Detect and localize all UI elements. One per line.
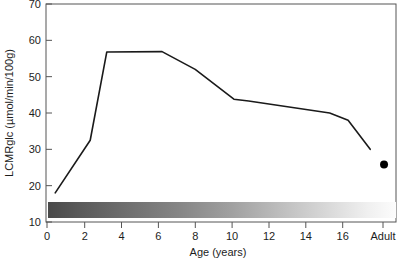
x-tick-label: 8 bbox=[192, 230, 198, 242]
x-axis-title: Age (years) bbox=[190, 246, 247, 258]
x-tick-label: 16 bbox=[337, 230, 349, 242]
y-tick-label: 70 bbox=[29, 0, 41, 10]
y-tick-label: 50 bbox=[29, 71, 41, 83]
line-chart: 70 60 50 40 30 20 10 LCMRglc (µmol/min/1… bbox=[0, 0, 413, 261]
chart-figure: 70 60 50 40 30 20 10 LCMRglc (µmol/min/1… bbox=[0, 0, 413, 261]
y-tick-label: 60 bbox=[29, 34, 41, 46]
y-tick-label: 10 bbox=[29, 216, 41, 228]
x-tick-label: 0 bbox=[44, 230, 50, 242]
x-axis-ticks bbox=[47, 222, 383, 228]
y-tick-label: 40 bbox=[29, 107, 41, 119]
x-tick-label: 2 bbox=[82, 230, 88, 242]
y-tick-label: 20 bbox=[29, 180, 41, 192]
y-axis-title: LCMRglc (µmol/min/100g) bbox=[3, 49, 15, 177]
myelination-gradient-bar bbox=[48, 202, 396, 218]
x-axis-tick-labels: 0 2 4 6 8 10 12 14 16 Adult bbox=[44, 230, 396, 242]
x-tick-label: 4 bbox=[118, 230, 124, 242]
x-tick-label: 12 bbox=[263, 230, 275, 242]
x-tick-label: Adult bbox=[370, 230, 395, 242]
x-tick-label: 14 bbox=[300, 230, 312, 242]
y-tick-label: 30 bbox=[29, 143, 41, 155]
adult-data-point bbox=[380, 161, 388, 169]
x-tick-label: 10 bbox=[226, 230, 238, 242]
plot-background bbox=[46, 4, 396, 222]
y-axis-tick-labels: 70 60 50 40 30 20 10 bbox=[29, 0, 41, 228]
x-tick-label: 6 bbox=[155, 230, 161, 242]
